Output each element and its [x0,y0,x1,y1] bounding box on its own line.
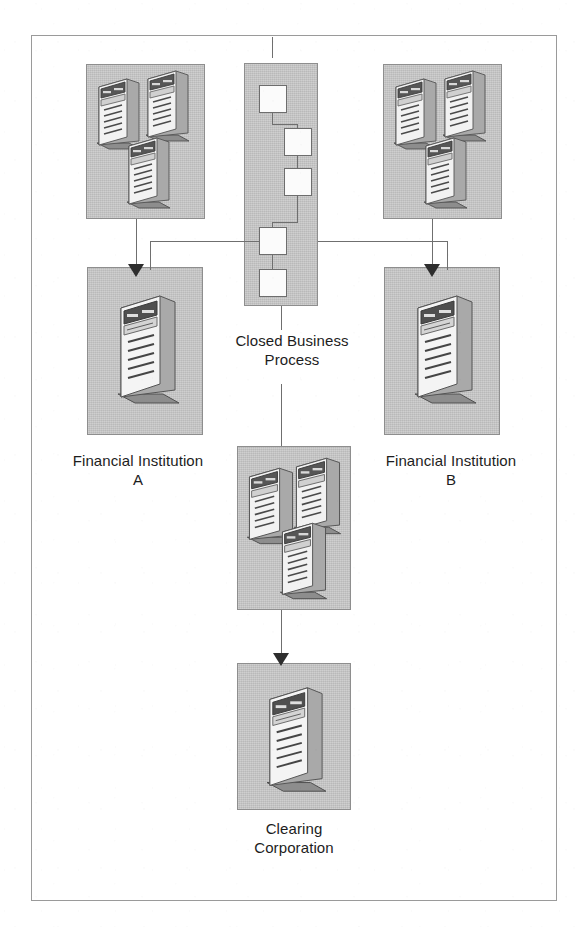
connector-cbp-to-mid-cluster [281,384,282,446]
process-step-box [259,227,287,255]
connector-cbp-bottom-stub [281,306,282,330]
panel-fi-a-cluster [86,64,205,219]
process-step-box [284,168,312,196]
label-closed-business-process: Closed Business Process [223,331,361,369]
server-icon [123,134,175,212]
process-step-box [259,269,287,297]
panel-fi-a-main [87,267,203,435]
server-icon [113,290,183,410]
server-icon [410,290,480,410]
figure-page: Closed Business Process Financial Instit… [0,0,587,927]
process-step-box [284,128,312,156]
connector-step2-to-step3 [297,156,298,168]
connector-cbp-left-horizontal [150,241,275,242]
connector-cbp-right-horizontal [318,241,448,242]
server-icon [262,682,330,798]
server-icon [276,519,332,603]
process-step-box [259,85,287,113]
connector-fia-cluster-down [136,219,137,269]
connector-step1-to-step2 [272,124,298,125]
server-icon [420,134,472,212]
arrowhead-into-fi-b [424,264,440,277]
panel-mid-cluster [237,446,351,610]
panel-fi-b-main [384,267,500,435]
panel-clearing-corporation [237,663,351,810]
connector-step3-to-step4 [272,222,298,223]
arrowhead-into-fi-a [128,264,144,277]
label-clearing-corporation: Clearing Corporation [219,819,369,857]
connector-step3-down [297,196,298,222]
connector-cbp-right-vertical [447,241,448,270]
arrowhead-into-clearing [273,653,289,666]
connector-step4-to-step5 [272,255,273,269]
panel-fi-b-cluster [383,64,502,219]
figure-frame: Closed Business Process Financial Instit… [31,35,557,901]
connector-fib-cluster-down [432,219,433,269]
connector-cbp-top-stub [272,37,273,58]
connector-cbp-left-vertical [150,241,151,270]
label-financial-institution-a: Financial Institution A [33,451,243,489]
label-financial-institution-b: Financial Institution B [346,451,556,489]
